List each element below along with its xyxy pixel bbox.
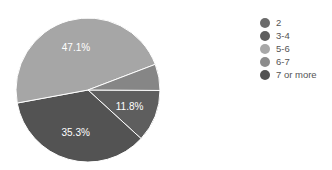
chart-legend: 2 3-4 5-6 6-7 7 or more xyxy=(260,16,317,81)
slice-percent-label: 11.8% xyxy=(116,101,144,112)
legend-label: 6-7 xyxy=(276,56,290,67)
legend-swatch-icon xyxy=(260,57,270,67)
legend-swatch-icon xyxy=(260,18,270,28)
slice-percent-label: 47.1% xyxy=(62,42,90,53)
legend-item-7-or-more[interactable]: 7 or more xyxy=(260,68,317,81)
slice-percent-label: 35.3% xyxy=(62,127,90,138)
legend-swatch-icon xyxy=(260,70,270,80)
legend-item-3-4[interactable]: 3-4 xyxy=(260,29,317,42)
pie-chart: 11.8%35.3%47.1% xyxy=(0,0,180,170)
legend-item-5-6[interactable]: 5-6 xyxy=(260,42,317,55)
legend-label: 7 or more xyxy=(276,69,317,80)
legend-item-6-7[interactable]: 6-7 xyxy=(260,55,317,68)
legend-swatch-icon xyxy=(260,31,270,41)
legend-label: 2 xyxy=(276,17,281,28)
legend-label: 3-4 xyxy=(276,30,290,41)
legend-item-2[interactable]: 2 xyxy=(260,16,317,29)
legend-swatch-icon xyxy=(260,44,270,54)
legend-label: 5-6 xyxy=(276,43,290,54)
